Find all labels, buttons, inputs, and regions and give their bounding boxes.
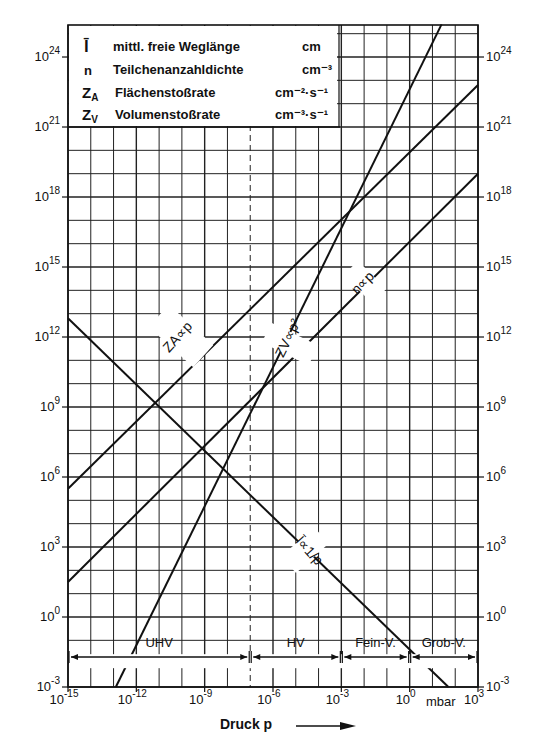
y-tick-left: 109 <box>40 395 60 414</box>
y-tick-left: 1012 <box>34 325 60 344</box>
y-tick-right: 1012 <box>486 325 512 344</box>
x-tick: 10-12 <box>118 688 147 707</box>
y-tick-right: 1024 <box>486 45 512 64</box>
region-label: Fein-V. <box>355 635 396 650</box>
y-tick-left: 103 <box>40 535 60 554</box>
legend-name-l: mittl. freie Weglänge <box>113 39 240 54</box>
y-tick-left: 1024 <box>34 45 60 64</box>
legend-unit-n: cm⁻³ <box>302 62 333 77</box>
y-tick-right: 109 <box>486 395 506 414</box>
y-tick-left: 100 <box>40 605 60 624</box>
x-unit-label: mbar <box>426 694 456 709</box>
y-tick-left: 106 <box>40 465 60 484</box>
y-tick-right: 1018 <box>486 185 512 204</box>
x-tick: 103 <box>464 688 484 707</box>
legend-unit-l: cm <box>302 39 321 54</box>
legend-name-n: Teilchenanzahldichte <box>113 62 244 77</box>
y-tick-left: 1015 <box>34 255 60 274</box>
y-tick-right: 10-3 <box>486 675 510 694</box>
x-tick: 10-15 <box>50 688 79 707</box>
x-tick: 10-3 <box>326 688 350 707</box>
legend-sym-l: l̄ <box>83 37 89 56</box>
x-tick-labels: 10-1510-1210-910-610-3100103 <box>50 687 485 707</box>
x-tick: 10-6 <box>257 688 281 707</box>
y-tick-right: 100 <box>486 605 506 624</box>
y-tick-right: 106 <box>486 465 506 484</box>
x-tick: 100 <box>396 688 416 707</box>
pressure-chart: 1024102410211021101810181015101510121012… <box>0 0 540 747</box>
legend-unit-zv: cm⁻³·s⁻¹ <box>275 107 328 122</box>
y-tick-right: 1021 <box>486 115 512 134</box>
y-tick-left: 1021 <box>34 115 60 134</box>
y-tick-right: 1015 <box>486 255 512 274</box>
x-tick: 10-9 <box>189 688 213 707</box>
legend-sym-n: n <box>84 63 92 78</box>
region-label: Grob-V. <box>422 635 466 650</box>
y-tick-right: 103 <box>486 535 506 554</box>
y-tick-left: 1018 <box>34 185 60 204</box>
x-axis-title: Druck p <box>220 716 272 732</box>
legend-unit-za: cm⁻²·s⁻¹ <box>275 85 328 100</box>
legend-name-za: Flächenstoßrate <box>115 85 215 100</box>
region-label: HV <box>287 635 305 650</box>
region-label: UHV <box>145 635 173 650</box>
x-axis-arrow <box>296 722 356 730</box>
curve-line <box>68 318 448 687</box>
legend-name-zv: Volumenstoßrate <box>115 107 220 122</box>
